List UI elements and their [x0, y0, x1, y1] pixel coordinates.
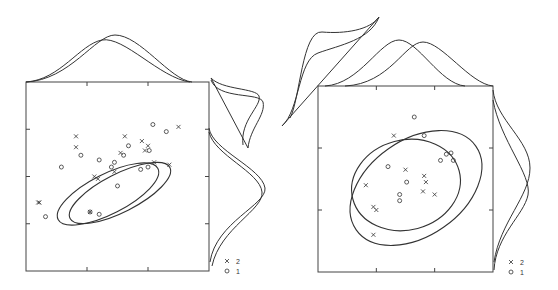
- data-point-group-1: [398, 193, 402, 197]
- data-point-group-1: [151, 123, 155, 127]
- legend-o-marker: [509, 270, 513, 274]
- right-points: [364, 115, 456, 237]
- data-point-group-2: [404, 168, 408, 172]
- data-point-group-1: [422, 134, 426, 138]
- figure: 2 1 2 1: [0, 0, 558, 290]
- data-point-group-2: [374, 208, 378, 212]
- left-legend: 2 1: [225, 258, 240, 275]
- data-point-group-1: [122, 153, 126, 157]
- right-top-marginal-group-2: [345, 42, 493, 86]
- left-plot-frame: [26, 82, 209, 271]
- legend-x-glyph: [509, 260, 513, 264]
- data-point-group-1: [97, 158, 101, 162]
- data-point-group-2: [92, 175, 96, 179]
- data-point-group-1: [164, 130, 168, 134]
- data-point-group-1: [398, 199, 402, 203]
- data-point-group-1: [109, 165, 113, 169]
- left-ticks: [26, 82, 209, 271]
- data-point-group-2: [364, 183, 368, 187]
- data-point-group-2: [421, 189, 425, 193]
- legend-o-marker: [225, 269, 229, 273]
- right-diagonal-baseline: [282, 17, 379, 126]
- left-top-marginal-group-2: [26, 35, 192, 82]
- data-point-group-2: [392, 134, 396, 138]
- data-point-group-1: [44, 215, 48, 219]
- data-point-group-2: [143, 149, 147, 153]
- data-point-group-1: [412, 115, 416, 119]
- data-point-group-1: [444, 152, 448, 156]
- left-diagonal-marginal-group-1: [211, 78, 259, 145]
- left-right-marginal-group-1: [209, 128, 265, 262]
- data-point-group-1: [405, 180, 409, 184]
- data-point-group-2: [371, 233, 375, 237]
- right-panel: 2 1: [282, 17, 530, 276]
- data-point-group-1: [147, 149, 151, 153]
- data-point-group-2: [433, 193, 437, 197]
- data-point-group-2: [422, 174, 426, 178]
- data-point-group-2: [146, 144, 150, 148]
- data-point-group-2: [424, 180, 428, 184]
- data-point-group-1: [386, 165, 390, 169]
- data-point-group-2: [123, 134, 127, 138]
- data-point-group-1: [116, 184, 120, 188]
- data-point-group-1: [79, 153, 83, 157]
- right-legend-label-1: 1: [520, 269, 524, 276]
- left-ellipse-group-2: [49, 151, 167, 237]
- data-point-group-2: [177, 125, 181, 129]
- legend-x-marker: [509, 260, 513, 264]
- data-point-group-2: [140, 139, 144, 143]
- data-point-group-2: [112, 170, 116, 174]
- legend-x-glyph: [225, 259, 229, 263]
- data-point-group-2: [96, 177, 100, 181]
- left-right-marginal-group-2: [209, 132, 262, 266]
- left-diagonal-marginal-group-2: [211, 80, 263, 148]
- data-point-group-1: [59, 165, 63, 169]
- data-point-group-1: [439, 158, 443, 162]
- legend-x-marker: [225, 259, 229, 263]
- left-legend-label-2: 2: [236, 258, 240, 265]
- data-point-group-1: [126, 144, 130, 148]
- data-point-group-1: [97, 212, 101, 216]
- right-ellipse-group-2: [329, 107, 504, 269]
- right-legend-label-2: 2: [520, 259, 524, 266]
- left-panel: 2 1: [26, 35, 265, 275]
- data-point-group-1: [449, 151, 453, 155]
- left-legend-label-1: 1: [236, 268, 240, 275]
- data-point-group-1: [146, 165, 150, 169]
- right-ellipse-group-1: [341, 127, 471, 242]
- left-ellipse-group-1: [61, 151, 178, 236]
- data-point-group-2: [74, 145, 78, 149]
- data-point-group-1: [139, 167, 143, 171]
- right-legend: 2 1: [509, 259, 524, 276]
- data-point-group-2: [74, 134, 78, 138]
- data-point-group-1: [112, 160, 116, 164]
